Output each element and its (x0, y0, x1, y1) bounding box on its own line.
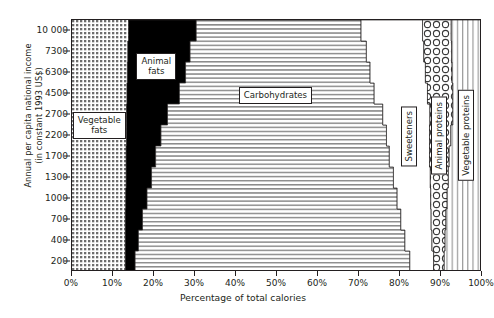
x-tick-label: 90% (430, 279, 450, 288)
x-tick-mark (71, 271, 72, 276)
x-tick-label: 20% (143, 279, 163, 288)
x-tick-label: 40% (225, 279, 245, 288)
stacked-bands-svg (72, 20, 481, 271)
x-tick-label: 80% (389, 279, 409, 288)
y-tick-mark (64, 155, 70, 156)
y-tick-mark (64, 197, 70, 198)
x-tick-mark (276, 271, 277, 276)
series-callout-carbohydrates: Carbohydrates (239, 87, 312, 104)
series-callout-animal-fats: Animal fats (136, 53, 176, 80)
x-axis-title: Percentage of total calories (0, 292, 486, 303)
series-callout-vegetable-proteins: Vegetable proteins (458, 90, 474, 181)
y-tick-mark (64, 50, 70, 51)
y-tick-mark (64, 218, 70, 219)
x-tick-mark (112, 271, 113, 276)
plot-area: Vegetable fatsAnimal fatsCarbohydratesSw… (71, 19, 481, 271)
x-axis-ticks: 0%10%20%30%40%50%60%70%80%90%100% (0, 271, 486, 293)
y-tick-mark (64, 239, 70, 240)
x-tick-label: 100% (468, 279, 494, 288)
x-tick-label: 60% (307, 279, 327, 288)
series-callout-vegetable-fats: Vegetable fats (73, 112, 126, 139)
x-tick-mark (317, 271, 318, 276)
y-tick-mark (64, 71, 70, 72)
y-tick-mark (64, 176, 70, 177)
x-tick-mark (399, 271, 400, 276)
series-band-vegetable-fats (72, 20, 129, 271)
x-tick-label: 70% (348, 279, 368, 288)
y-tick-mark (64, 113, 70, 114)
x-tick-mark (358, 271, 359, 276)
x-tick-label: 0% (64, 279, 78, 288)
series-callout-animal-proteins: Animal proteins (431, 97, 447, 175)
x-tick-mark (235, 271, 236, 276)
series-callout-sweeteners: Sweeteners (401, 106, 417, 166)
x-tick-mark (194, 271, 195, 276)
x-tick-mark (153, 271, 154, 276)
y-tick-mark (64, 134, 70, 135)
x-tick-mark (440, 271, 441, 276)
x-tick-mark (481, 271, 482, 276)
y-tick-mark (64, 29, 70, 30)
x-tick-label: 50% (266, 279, 286, 288)
x-tick-label: 10% (102, 279, 122, 288)
y-tick-mark (64, 260, 70, 261)
x-tick-label: 30% (184, 279, 204, 288)
y-tick-mark (64, 92, 70, 93)
